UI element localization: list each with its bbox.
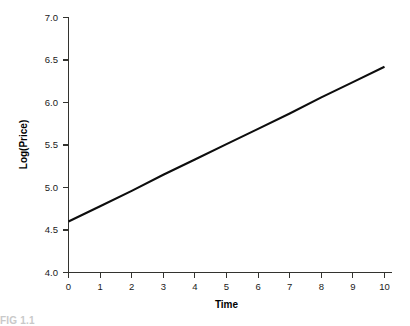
x-tick-label: 9 bbox=[350, 281, 355, 292]
bottom-edge-caption-fragment: FIG 1.1 bbox=[0, 316, 46, 326]
y-tick-label: 4.5 bbox=[45, 224, 58, 235]
y-axis-title: Log(Price) bbox=[18, 120, 29, 169]
figure-background bbox=[0, 0, 410, 326]
line-chart-canvas: 7.0 6.5 6.0 5.5 5.0 4.5 4.0 0 1 2 3 4 5 … bbox=[0, 0, 410, 326]
y-tick-label: 6.0 bbox=[45, 97, 58, 108]
x-tick-label: 5 bbox=[224, 281, 229, 292]
y-tick-label: 6.5 bbox=[45, 54, 58, 65]
x-tick-label: 4 bbox=[192, 281, 197, 292]
y-tick-label: 5.5 bbox=[45, 139, 58, 150]
y-tick-label: 5.0 bbox=[45, 182, 58, 193]
y-tick-label: 4.0 bbox=[45, 267, 58, 278]
x-tick-label: 8 bbox=[319, 281, 324, 292]
y-tick-label: 7.0 bbox=[45, 12, 58, 23]
x-axis-title: Time bbox=[215, 299, 239, 310]
x-tick-label: 0 bbox=[66, 281, 71, 292]
x-tick-label: 1 bbox=[97, 281, 102, 292]
x-tick-label: 3 bbox=[161, 281, 166, 292]
x-tick-label: 6 bbox=[255, 281, 260, 292]
x-tick-label: 10 bbox=[379, 281, 390, 292]
chart-figure: 7.0 6.5 6.0 5.5 5.0 4.5 4.0 0 1 2 3 4 5 … bbox=[0, 0, 410, 326]
x-tick-label: 2 bbox=[129, 281, 134, 292]
x-tick-label: 7 bbox=[287, 281, 292, 292]
